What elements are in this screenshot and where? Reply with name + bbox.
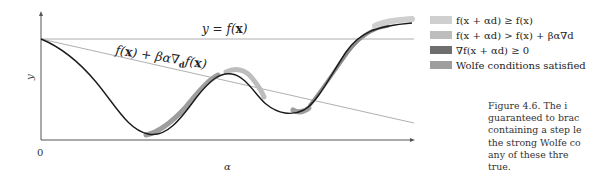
band-gradient-nonneg (310, 26, 388, 105)
legend-item-gradient-nonneg: ∇f(x + αd) ≥ 0 (430, 43, 580, 57)
legend-item-sufficient-decrease-violated: f(x + αd) > f(x) + βα∇d (430, 28, 580, 42)
figure-caption: Figure 4.6. The i guaranteed to brac con… (488, 100, 590, 173)
legend-swatch (430, 16, 452, 24)
legend-swatch (430, 46, 452, 54)
x-axis-label: α (224, 161, 231, 172)
hline-label: y = f(x) (201, 22, 248, 36)
sufficient-decrease-line (41, 39, 414, 123)
legend-swatch (430, 31, 452, 39)
legend-item-wolfe-satisfied: Wolfe conditions satisfied (430, 58, 580, 72)
legend-label: f(x + αd) ≥ f(x) (456, 15, 533, 26)
caption-line: the strong Wolfe co (488, 137, 590, 149)
caption-line: containing a step le (488, 124, 590, 136)
caption-line: any of these thre (488, 149, 590, 161)
caption-line: true. (488, 161, 590, 173)
figure-plot: y = f(x) f(x) + βα∇df(x) y 0 α (0, 0, 420, 179)
legend-swatch (430, 61, 452, 69)
legend-label: ∇f(x + αd) ≥ 0 (456, 45, 529, 56)
x-origin-tick: 0 (37, 147, 43, 158)
legend-label: f(x + αd) > f(x) + βα∇d (456, 30, 574, 41)
legend-label: Wolfe conditions satisfied (456, 60, 586, 71)
legend-item-value-increase: f(x + αd) ≥ f(x) (430, 13, 580, 27)
legend: f(x + αd) ≥ f(x) f(x + αd) > f(x) + βα∇d… (430, 13, 580, 73)
caption-line: Figure 4.6. The i (488, 100, 590, 112)
sufficient-decrease-label: f(x) + βα∇df(x) (113, 42, 208, 73)
caption-line: guaranteed to brac (488, 112, 590, 124)
y-axis-arrow-icon (39, 11, 43, 16)
y-axis-label: y (24, 74, 35, 81)
band-wolfe-satisfied-1 (146, 75, 218, 135)
x-axis-arrow-icon (410, 138, 415, 142)
objective-curve (41, 23, 412, 135)
